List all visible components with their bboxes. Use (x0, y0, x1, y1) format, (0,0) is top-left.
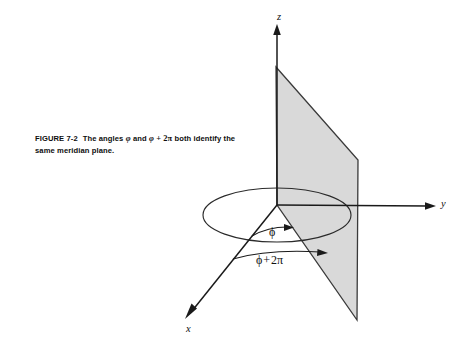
z-axis-label: z (277, 11, 281, 22)
caption-operator: + (156, 134, 161, 143)
phi-plus-2pi-term: 2π (271, 253, 283, 267)
caption-two-pi-term: 2π (163, 134, 172, 143)
meridian-plane (276, 67, 358, 320)
coordinate-diagram (0, 0, 467, 351)
y-axis-arrowhead (425, 202, 436, 210)
caption-phi-symbol-1: φ (126, 134, 131, 143)
caption-text-2: and (133, 134, 147, 143)
caption-text-3: both identify the (174, 134, 235, 143)
caption-phi-symbol-2: φ (149, 134, 154, 143)
caption-line-2: same meridian plane. (35, 146, 114, 155)
phi-angle-label: ϕ (269, 225, 275, 240)
phi-plus-2pi-angle-label: ϕ+2π (256, 253, 283, 268)
y-axis-line (277, 205, 428, 206)
figure-caption: FIGURE 7-2The angles φ and φ + 2π both i… (35, 133, 250, 156)
z-axis-arrowhead (273, 24, 281, 35)
figure-number: FIGURE 7-2 (35, 134, 78, 143)
figure-page: FIGURE 7-2The angles φ and φ + 2π both i… (0, 0, 467, 351)
caption-text-1: The angles (83, 134, 124, 143)
y-axis-label: y (441, 198, 446, 209)
phi-plus-2pi-operator: + (262, 253, 271, 267)
x-axis-label: x (186, 323, 191, 334)
